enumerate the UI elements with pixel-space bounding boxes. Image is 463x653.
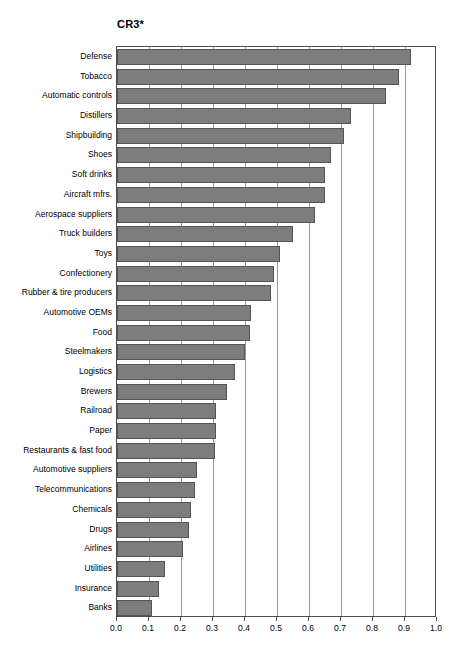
- x-tick-mark: [148, 617, 149, 621]
- x-tick-mark: [276, 617, 277, 621]
- category-label: Rubber & tire producers: [0, 287, 112, 297]
- x-tick-mark: [436, 617, 437, 621]
- x-tick-mark: [212, 617, 213, 621]
- category-label: Restaurants & fast food: [0, 445, 112, 455]
- x-tick-mark: [404, 617, 405, 621]
- category-label: Food: [0, 327, 112, 337]
- category-label: Defense: [0, 51, 112, 61]
- category-label: Aircraft mfrs.: [0, 189, 112, 199]
- category-label: Toys: [0, 248, 112, 258]
- cr3-bar-chart: CR3* DefenseTobaccoAutomatic controlsDis…: [0, 0, 463, 653]
- category-label: Confectionery: [0, 268, 112, 278]
- category-label: Distillers: [0, 110, 112, 120]
- category-label: Aerospace suppliers: [0, 209, 112, 219]
- category-label: Railroad: [0, 405, 112, 415]
- x-tick-mark: [244, 617, 245, 621]
- category-label: Shoes: [0, 149, 112, 159]
- x-tick-mark: [340, 617, 341, 621]
- category-labels: DefenseTobaccoAutomatic controlsDistille…: [0, 46, 463, 617]
- category-label: Logistics: [0, 366, 112, 376]
- category-label: Automatic controls: [0, 90, 112, 100]
- category-label: Banks: [0, 602, 112, 612]
- x-tick-mark: [116, 617, 117, 621]
- category-label: Utilities: [0, 563, 112, 573]
- category-label: Telecommunications: [0, 484, 112, 494]
- category-label: Brewers: [0, 386, 112, 396]
- x-tick-mark: [180, 617, 181, 621]
- category-label: Airlines: [0, 543, 112, 553]
- category-label: Insurance: [0, 583, 112, 593]
- category-label: Shipbuilding: [0, 130, 112, 140]
- category-label: Automotive suppliers: [0, 464, 112, 474]
- category-label: Drugs: [0, 524, 112, 534]
- category-label: Steelmakers: [0, 346, 112, 356]
- x-axis: 0.00.10.20.30.40.50.60.70.80.91.0: [0, 617, 463, 647]
- category-label: Tobacco: [0, 71, 112, 81]
- category-label: Chemicals: [0, 504, 112, 514]
- category-label: Automotive OEMs: [0, 307, 112, 317]
- category-label: Paper: [0, 425, 112, 435]
- chart-title: CR3*: [117, 18, 144, 30]
- x-tick-mark: [372, 617, 373, 621]
- category-label: Soft drinks: [0, 169, 112, 179]
- category-label: Truck builders: [0, 228, 112, 238]
- x-tick-mark: [308, 617, 309, 621]
- x-tick-label: 1.0: [416, 623, 456, 633]
